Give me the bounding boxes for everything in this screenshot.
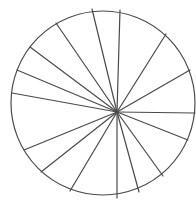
spoke-line-12 xyxy=(24,112,117,150)
spoke-line-8 xyxy=(117,112,139,192)
spoke-line-13 xyxy=(12,93,117,112)
spoke-line-3 xyxy=(117,34,166,112)
spoke-line-5 xyxy=(117,112,195,113)
outer-circle xyxy=(11,11,195,195)
sector-diagram xyxy=(0,0,196,204)
spoke-line-10 xyxy=(70,112,117,191)
divided-circle-figure xyxy=(0,0,196,204)
spoke-line-4 xyxy=(117,70,190,112)
spoke-line-11 xyxy=(41,112,117,172)
hub-point xyxy=(116,111,119,114)
spoke-line-2 xyxy=(117,10,120,112)
